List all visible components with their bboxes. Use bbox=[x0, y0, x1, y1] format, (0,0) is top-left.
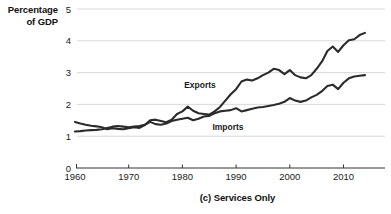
x-tick-label-1970: 1970 bbox=[118, 171, 139, 182]
series-lines-group bbox=[75, 33, 365, 132]
gridlines-group bbox=[77, 9, 385, 136]
y-tick-label-4: 4 bbox=[66, 35, 71, 46]
series-line-exports bbox=[75, 33, 365, 129]
x-tick-label-1960: 1960 bbox=[64, 171, 85, 182]
x-tick-label-2000: 2000 bbox=[279, 171, 300, 182]
y-tick-label-3: 3 bbox=[66, 67, 71, 78]
x-tick-label-2010: 2010 bbox=[333, 171, 354, 182]
y-tick-labels-group: 543210 bbox=[66, 4, 71, 174]
panel-caption: (c) Services Only bbox=[0, 192, 391, 203]
panel-caption-text: (c) Services Only bbox=[200, 192, 275, 203]
chart-figure: Percentage of GDP 543210 196019701980199… bbox=[0, 0, 391, 214]
chart-plot-area: 543210 196019701980199020002010 ExportsI… bbox=[0, 0, 391, 214]
series-label-imports: Imports bbox=[212, 122, 243, 132]
x-tick-label-1980: 1980 bbox=[172, 171, 193, 182]
x-tick-labels-group: 196019701980199020002010 bbox=[64, 171, 354, 182]
series-annotations-group: ExportsImports bbox=[184, 80, 244, 132]
y-tick-label-2: 2 bbox=[66, 99, 71, 110]
y-tick-label-5: 5 bbox=[66, 4, 71, 15]
series-label-exports: Exports bbox=[184, 80, 216, 90]
x-tick-label-1990: 1990 bbox=[226, 171, 247, 182]
y-tick-label-1: 1 bbox=[66, 131, 71, 142]
x-axis-group bbox=[76, 164, 385, 168]
